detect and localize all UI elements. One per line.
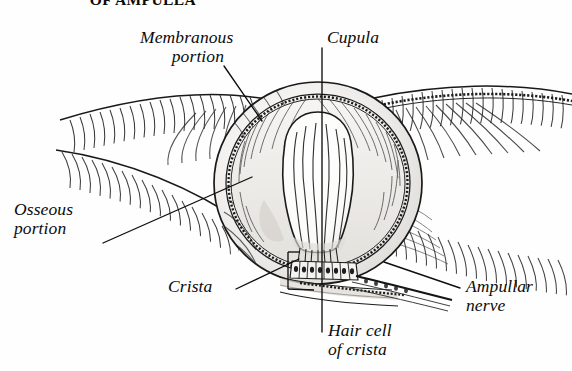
label-ampullar-line1: Ampullar — [466, 277, 533, 296]
label-membranous-line2: portion — [140, 47, 224, 66]
label-osseous-line1: Osseous — [14, 200, 106, 219]
label-membranous-line1: Membranous — [140, 28, 224, 47]
label-hair-line1: Hair cell — [328, 321, 392, 340]
ampulla-illustration — [0, 0, 572, 371]
label-crista: Crista — [168, 277, 212, 296]
ampullar-leader — [384, 262, 460, 288]
hair-cell-row — [290, 261, 358, 280]
label-osseous-line2: portion — [14, 219, 106, 238]
label-cupula: Cupula — [327, 28, 379, 47]
label-membranous-portion: Membranous portion — [140, 28, 224, 66]
label-osseous-portion: Osseous portion — [14, 200, 106, 238]
figure-title: OF AMPULLA — [0, 0, 286, 9]
label-hair-line2: of crista — [328, 340, 392, 359]
label-hair-cell-of-crista: Hair cell of crista — [328, 321, 392, 359]
label-ampullar-line2: nerve — [466, 296, 533, 315]
label-ampullar-nerve: Ampullar nerve — [466, 277, 533, 315]
figure-canvas: OF AMPULLA Membranous portion Cupula Oss… — [0, 0, 572, 371]
